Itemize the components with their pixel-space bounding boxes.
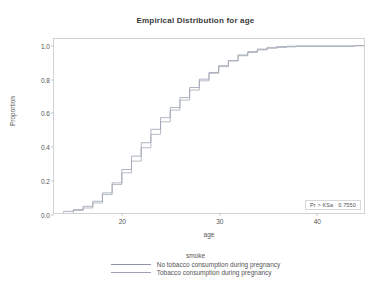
legend-line-icon — [111, 272, 151, 273]
series-step-line — [64, 46, 364, 213]
annotation-value: 0.7550 — [338, 202, 356, 208]
y-tick-label: 0.2 — [41, 178, 50, 185]
goodness-of-fit-annotation: Pr > KSa0.7550 — [305, 200, 361, 210]
legend-item[interactable]: Tobacco consumption during pregnancy — [111, 269, 281, 276]
legend-item-label: Tobacco consumption during pregnancy — [157, 269, 272, 276]
y-tickmark — [51, 113, 54, 114]
legend: smoke No tobacco consumption during preg… — [0, 252, 391, 277]
y-tickmark — [51, 79, 54, 80]
x-tick-label: 40 — [314, 218, 321, 225]
legend-line-icon — [111, 264, 151, 265]
plot-canvas — [54, 39, 364, 213]
y-tick-label: 0.0 — [41, 212, 50, 219]
chart-title: Empirical Distribution for age — [0, 16, 391, 25]
x-tick-label: 20 — [119, 218, 126, 225]
y-tick-label: 1.0 — [41, 42, 50, 49]
y-tickmark — [51, 45, 54, 46]
x-tickmark — [317, 213, 318, 216]
legend-item[interactable]: No tobacco consumption during pregnancy — [111, 261, 281, 268]
x-tickmark — [122, 213, 123, 216]
legend-item-label: No tobacco consumption during pregnancy — [157, 261, 281, 268]
chart-figure: Empirical Distribution for age 0.00.20.4… — [0, 0, 391, 304]
x-tick-label: 30 — [216, 218, 223, 225]
y-tickmark — [51, 215, 54, 216]
y-tickmark — [51, 181, 54, 182]
y-tick-label: 0.8 — [41, 76, 50, 83]
y-tickmark — [51, 147, 54, 148]
legend-title: smoke — [186, 252, 205, 259]
x-tickmark — [219, 213, 220, 216]
series-lines — [54, 39, 364, 213]
y-tick-label: 0.6 — [41, 110, 50, 117]
series-step-line — [73, 46, 364, 213]
plot-area: 0.00.20.40.60.81.0 203040 Pr > KSa0.7550 — [53, 38, 365, 214]
x-axis-label: age — [53, 231, 365, 238]
y-tick-label: 0.4 — [41, 144, 50, 151]
annotation-label: Pr > KSa — [310, 202, 333, 208]
y-axis-label: Proportion — [9, 96, 16, 126]
legend-entries: No tobacco consumption during pregnancyT… — [111, 261, 281, 277]
